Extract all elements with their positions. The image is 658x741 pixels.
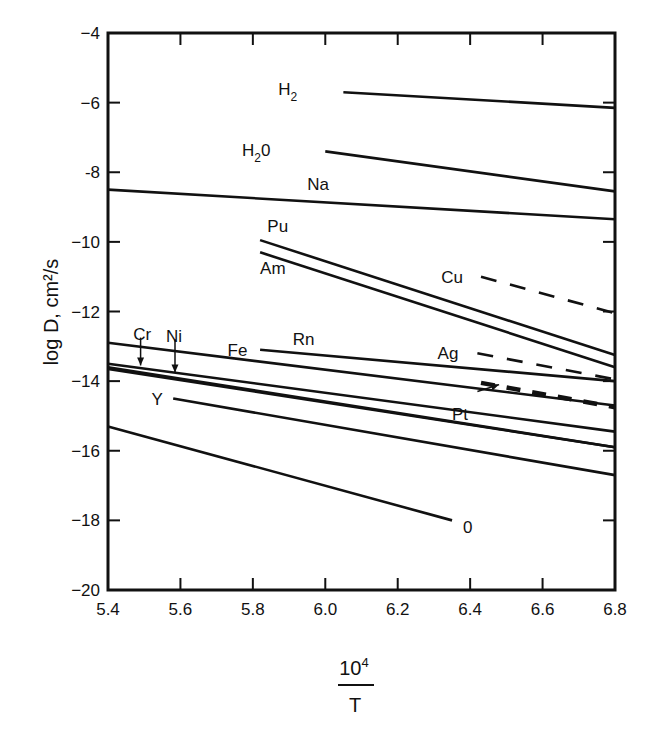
x-tick-label: 5.8 xyxy=(241,600,265,619)
y-tick-label: −20 xyxy=(71,581,100,600)
y-axis-title: log D, cm²/s xyxy=(40,259,62,366)
x-tick-label: 6.4 xyxy=(458,600,482,619)
x-axis-title: 104 T xyxy=(338,655,374,716)
x-axis-title-numerator: 10 xyxy=(339,657,361,679)
y-tick-label: −12 xyxy=(71,303,100,322)
x-axis-title-exponent: 4 xyxy=(362,655,369,670)
series-label-na: Na xyxy=(307,175,329,194)
x-axis-title-denominator: T xyxy=(349,694,361,716)
plot-frame xyxy=(108,33,615,590)
arrow-head-icon xyxy=(137,357,144,365)
series-line-h2 xyxy=(343,92,615,108)
series-line-h2o xyxy=(325,151,615,191)
series-line-pt xyxy=(108,367,615,447)
series-label-cr: Cr xyxy=(133,325,151,344)
y-tick-label: −14 xyxy=(71,372,100,391)
series-line-ag-lower xyxy=(481,383,615,407)
series-labels: H2H20NaPuAmCuFeRnAgCrNiPtY0 xyxy=(133,80,472,538)
series-label-h2o: H20 xyxy=(242,141,270,165)
y-tick-label: -8 xyxy=(85,163,100,182)
x-tick-label: 6.2 xyxy=(386,600,410,619)
x-tick-label: 6.0 xyxy=(313,600,337,619)
series-label-am: Am xyxy=(260,259,286,278)
diffusion-chart: 5.45.65.86.06.26.46.66.8 −4−6-8−10−12−14… xyxy=(0,0,658,741)
series-label-cu: Cu xyxy=(441,268,463,287)
series-label-o: 0 xyxy=(463,518,472,537)
series-line-o xyxy=(108,426,452,520)
y-tick-label: −18 xyxy=(71,511,100,530)
y-axis: −4−6-8−10−12−14−16−18−20 xyxy=(71,24,615,600)
svg-text:104: 104 xyxy=(339,655,368,679)
plot-border xyxy=(108,33,615,590)
x-tick-label: 5.4 xyxy=(96,600,120,619)
series-label-fe: Fe xyxy=(228,341,248,360)
series-label-rn: Rn xyxy=(293,330,315,349)
series-label-pt: Pt xyxy=(452,405,468,424)
series-label-ni: Ni xyxy=(166,327,182,346)
series-lines xyxy=(108,92,615,520)
x-tick-label: 5.6 xyxy=(169,600,193,619)
series-line-na xyxy=(108,190,615,220)
series-label-h2: H2 xyxy=(278,80,297,104)
x-tick-label: 6.6 xyxy=(531,600,555,619)
y-tick-label: −10 xyxy=(71,233,100,252)
y-tick-label: −16 xyxy=(71,442,100,461)
y-tick-label: −6 xyxy=(81,94,100,113)
y-tick-label: −4 xyxy=(81,24,100,43)
series-label-ag: Ag xyxy=(438,344,459,363)
series-label-pu: Pu xyxy=(267,217,288,236)
series-label-y: Y xyxy=(151,390,162,409)
series-line-cu xyxy=(481,277,615,314)
x-tick-label: 6.8 xyxy=(603,600,627,619)
